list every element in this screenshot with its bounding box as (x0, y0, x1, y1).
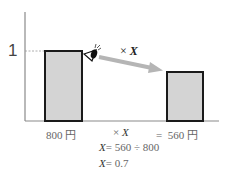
times-sign: × (120, 44, 127, 58)
equals-sign: = (156, 129, 162, 141)
variable-x: X (99, 157, 106, 169)
expression: = 560 ÷ 800 (106, 141, 160, 153)
times-sign: × (113, 126, 119, 138)
variable-x: X (122, 126, 129, 138)
bar-label-800: 800 円 (46, 126, 76, 142)
unit: 円 (187, 129, 198, 141)
expression: = 0.7 (106, 157, 129, 169)
value: 560 (168, 129, 185, 141)
bar-800 (45, 51, 82, 121)
variable-x: X (130, 44, 138, 58)
value: 800 (46, 129, 63, 141)
bar-label-560: = 560 円 (156, 126, 198, 142)
y-tick-label: 1 (8, 41, 17, 61)
equation-multiplier: × X (113, 126, 129, 138)
bar-diagram (0, 0, 233, 180)
equation-step-2: X= 0.7 (99, 157, 128, 169)
unit: 円 (65, 129, 76, 141)
variable-x: X (99, 141, 106, 153)
eye-icon (84, 44, 101, 61)
equation-step-1: X= 560 ÷ 800 (99, 141, 159, 153)
bar-560 (167, 72, 203, 121)
arrow-icon (99, 57, 163, 73)
arrow-label: × X (120, 44, 138, 59)
